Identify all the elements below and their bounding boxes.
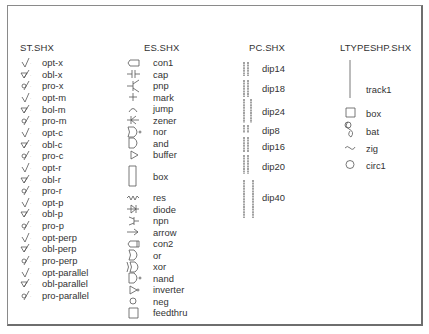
svg-text:·: · [30, 189, 31, 194]
inverter-icon [127, 285, 141, 295]
es-shx-item-label: nand [153, 273, 174, 284]
zener-diode-icon [127, 115, 141, 125]
prohibited-check-c-icon: · [21, 151, 33, 161]
es-shx-item-label: mark [153, 92, 174, 103]
es-shx-title: ES.SHX [144, 42, 179, 53]
ltypeshp-shx-item-label: zig [366, 143, 378, 154]
es-shx-item-label: con1 [153, 57, 173, 68]
st-shx-item-label: pro-c [42, 150, 63, 161]
svg-text:·: · [30, 143, 31, 148]
svg-text:·: · [30, 96, 31, 101]
resistor-icon [127, 193, 141, 203]
st-shx-item-label: obl-p [42, 208, 63, 219]
ltypeshp-shx-item-label: box [366, 108, 381, 119]
es-shx-item-label: buffer [153, 149, 177, 160]
optional-check-p-icon: · [21, 198, 33, 208]
connector-2-icon [127, 239, 141, 249]
pc-shx-title: PC.SHX [249, 42, 285, 53]
st-shx-item-label: pro-parallel [42, 290, 89, 301]
svg-text:·: · [30, 131, 31, 136]
xor-gate-icon [127, 262, 141, 272]
svg-text:·: · [30, 271, 31, 276]
optional-check-c-icon: · [21, 128, 33, 138]
svg-text:·: · [30, 212, 31, 217]
feedthru-square-icon [127, 308, 141, 318]
st-shx-item-label: pro-m [42, 115, 66, 126]
batting-icon [345, 122, 357, 138]
optional-check-m-icon: · [21, 93, 33, 103]
svg-text:·: · [30, 61, 31, 66]
dip18-package-icon [243, 80, 257, 97]
dip14-package-icon [243, 62, 257, 76]
st-shx-item-label: obl-parallel [42, 278, 88, 289]
and-gate-icon [127, 138, 141, 148]
st-shx-item-label: opt-parallel [42, 267, 88, 278]
connector-icon [127, 58, 141, 68]
obligatory-check-x-icon: · [21, 70, 33, 80]
nand-gate-icon [127, 273, 141, 283]
es-shx-item-label: nor [153, 126, 167, 137]
st-shx-item-label: bol-m [42, 104, 65, 115]
obligatory-check-parallel-icon: · [21, 279, 33, 289]
pc-shx-item-label: dip24 [262, 106, 285, 117]
obligatory-check-p-icon: · [21, 209, 33, 219]
obligatory-check-perp-icon: · [21, 244, 33, 254]
st-shx-item-label: opt-perp [42, 232, 77, 243]
svg-text:·: · [30, 259, 31, 264]
es-shx-item-label: feedthru [153, 307, 187, 318]
square-icon [345, 108, 357, 118]
es-shx-item-label: res [153, 192, 166, 203]
arrow-icon [127, 227, 141, 237]
svg-text:·: · [30, 119, 31, 124]
svg-text:·: · [30, 154, 31, 159]
es-shx-item-label: arrow [153, 227, 176, 238]
st-shx-item-label: opt-p [42, 197, 63, 208]
or-gate-icon [127, 250, 141, 260]
st-shx-item-label: pro-perp [42, 255, 77, 266]
es-shx-item-label: box [153, 171, 168, 182]
dip40-package-icon [243, 180, 257, 218]
svg-text:·: · [30, 236, 31, 241]
obligatory-check-m-icon: · [21, 105, 33, 115]
zigzag-icon [345, 145, 357, 151]
es-shx-item-label: npn [153, 215, 169, 226]
es-shx-item-label: con2 [153, 238, 173, 249]
pc-shx-item-label: dip14 [262, 63, 285, 74]
ltypeshp-shx-item-label: circ1 [366, 160, 386, 171]
svg-text:·: · [30, 201, 31, 206]
svg-text:·: · [30, 84, 31, 89]
st-shx-title: ST.SHX [20, 42, 54, 53]
prohibited-check-p-icon: · [21, 221, 33, 231]
circle-icon [345, 160, 357, 170]
buffer-triangle-icon [127, 150, 141, 160]
nor-gate-icon [127, 127, 141, 137]
st-shx-item-label: obl-r [42, 174, 61, 185]
dip8-package-icon [243, 125, 257, 133]
prohibited-check-perp-icon: · [21, 256, 33, 266]
optional-check-perp-icon: · [21, 233, 33, 243]
ltypeshp-shx-title: LTYPESHP.SHX [340, 42, 411, 53]
es-shx-item-label: or [153, 250, 161, 261]
optional-check-x-icon: · [21, 58, 33, 68]
es-shx-item-label: jump [153, 103, 173, 114]
optional-check-r-icon: · [21, 163, 33, 173]
svg-text:·: · [30, 294, 31, 299]
svg-text:·: · [30, 73, 31, 78]
es-shx-item-label: and [153, 138, 169, 149]
st-shx-item-label: opt-c [42, 127, 63, 138]
svg-text:·: · [30, 224, 31, 229]
st-shx-item-label: opt-r [42, 162, 61, 173]
prohibited-check-m-icon: · [21, 116, 33, 126]
svg-text:·: · [30, 178, 31, 183]
es-shx-item-label: neg [153, 296, 169, 307]
dip20-package-icon [243, 155, 257, 174]
negation-circle-icon [127, 296, 141, 306]
ltypeshp-shx-item-label: bat [366, 126, 379, 137]
st-shx-item-label: obl-c [42, 139, 62, 150]
npn-transistor-icon [127, 216, 141, 226]
plus-mark-icon [127, 92, 141, 102]
st-shx-item-label: obl-perp [42, 243, 76, 254]
svg-text:·: · [30, 282, 31, 287]
pc-shx-item-label: dip18 [262, 83, 285, 94]
pc-shx-item-label: dip40 [262, 192, 285, 203]
